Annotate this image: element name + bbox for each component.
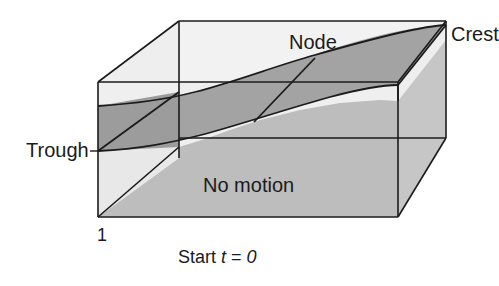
- caption-equals: =: [231, 247, 242, 267]
- label-crest: Crest: [451, 24, 499, 44]
- label-trough: Trough: [26, 140, 89, 160]
- caption-value: 0: [247, 247, 257, 267]
- caption-word: Start: [178, 247, 216, 267]
- label-no-motion: No motion: [203, 175, 294, 195]
- figure-caption: Start t = 0: [178, 248, 257, 266]
- label-axis-tick-1: 1: [97, 226, 107, 244]
- label-node: Node: [289, 32, 337, 52]
- caption-variable: t: [221, 247, 226, 267]
